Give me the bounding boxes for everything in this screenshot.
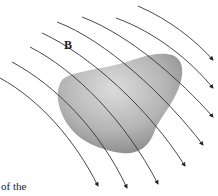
- caption-fragment: of the: [1, 180, 26, 192]
- field-diagram: [0, 0, 218, 196]
- field-label-b: B: [64, 38, 72, 53]
